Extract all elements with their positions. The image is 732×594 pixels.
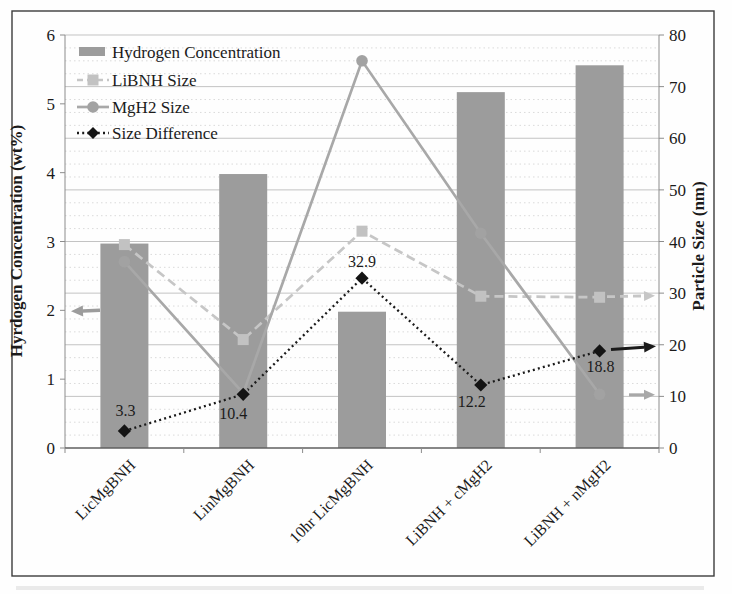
- right-axis-tick-label: 10: [669, 387, 686, 406]
- left-axis-tick-label: 5: [47, 95, 56, 114]
- libnh-to-right-axis-arrow-shaft: [607, 296, 644, 297]
- category-label: LicMgBNH: [72, 456, 140, 524]
- category-label: LiBNH + nMgH2: [521, 456, 615, 550]
- legend-size-difference-label: Size Difference: [112, 124, 218, 143]
- size-difference-value-label: 10.4: [219, 405, 247, 422]
- size-difference-value-label: 32.9: [348, 253, 376, 270]
- figure: 012345601020304050607080LicMgBNHLinMgBNH…: [0, 0, 732, 594]
- mgh2-size-marker: [119, 256, 131, 268]
- mgh2-size-marker: [475, 227, 487, 239]
- right-axis-tick-label: 0: [669, 439, 678, 458]
- size-difference-value-label: 12.2: [458, 393, 486, 410]
- right-axis-tick-label: 20: [669, 336, 686, 355]
- size-difference-value-label: 18.8: [587, 358, 615, 375]
- left-axis-tick-label: 6: [47, 26, 56, 45]
- libnh-size-marker: [238, 334, 249, 345]
- legend-mgh2-size-swatch-marker: [87, 101, 99, 113]
- size-difference-to-right-axis-arrow-head: [644, 342, 656, 353]
- mgh2-size-marker: [594, 389, 606, 401]
- right-axis-tick-label: 40: [669, 233, 686, 252]
- libnh-size-marker: [475, 291, 486, 302]
- legend-size-difference-swatch-marker: [87, 127, 99, 139]
- left-axis-tick-label: 1: [47, 370, 56, 389]
- bar: [338, 312, 386, 448]
- left-axis-tick-label: 3: [47, 233, 56, 252]
- legend-libnh-size-label: LiBNH Size: [112, 71, 197, 90]
- left-axis-tick-label: 4: [47, 164, 56, 183]
- scan-smudge: [16, 586, 704, 590]
- bars-to-left-axis-arrow-head: [71, 305, 83, 316]
- legend-hydrogen-concentration-swatch: [79, 47, 105, 56]
- left-axis-tick-label: 2: [47, 301, 56, 320]
- right-axis-tick-label: 60: [669, 129, 686, 148]
- bars-to-left-axis-arrow-shaft: [83, 310, 100, 311]
- left-axis-title: Hyrdogen Concentration (wt%): [7, 125, 26, 357]
- legend-hydrogen-concentration-label: Hydrogen Concentration: [112, 43, 281, 62]
- right-axis-tick-label: 80: [669, 26, 686, 45]
- left-axis-tick-label: 0: [47, 439, 56, 458]
- right-axis-tick-label: 30: [669, 284, 686, 303]
- category-label: LinMgBNH: [190, 456, 258, 524]
- legend-libnh-size-swatch-marker: [88, 75, 99, 86]
- size-difference-value-label: 3.3: [115, 402, 135, 419]
- mgh2-size-marker: [356, 55, 368, 67]
- legend-mgh2-size-label: MgH2 Size: [112, 98, 190, 117]
- libnh-size-marker: [357, 226, 368, 237]
- libnh-size-marker: [119, 239, 130, 250]
- libnh-size-marker: [594, 292, 605, 303]
- combo-chart: 012345601020304050607080LicMgBNHLinMgBNH…: [0, 0, 732, 594]
- legend: Hydrogen ConcentrationLiBNH SizeMgH2 Siz…: [77, 43, 281, 143]
- libnh-to-right-axis-arrow-head: [644, 291, 655, 301]
- right-axis-title: Particle Size (nm): [689, 181, 708, 310]
- right-axis-tick-label: 70: [669, 78, 686, 97]
- mgh2-to-right-axis-arrow-head: [644, 390, 655, 400]
- category-label: LiBNH + cMgH2: [402, 456, 495, 549]
- category-label: 10hr LicMgBNH: [286, 456, 377, 547]
- right-axis-tick-label: 50: [669, 181, 686, 200]
